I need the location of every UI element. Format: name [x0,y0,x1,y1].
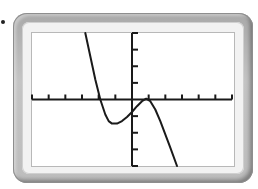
graph-plot [0,0,258,189]
axes [32,33,232,166]
